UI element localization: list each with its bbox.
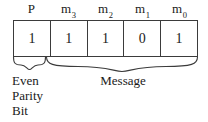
bit-header-m2: m2 [87,1,124,20]
parity-brace-icon [14,57,46,70]
bit-cell-row: 1 1 1 0 1 [13,20,198,57]
bit-header-subscript: 2 [108,11,113,21]
bit-header-subscript: 0 [182,11,187,21]
bit-cell: 0 [124,21,161,56]
bit-cell: 1 [161,21,197,56]
bit-header-base: m [135,1,145,16]
bit-header-base: P [28,1,35,16]
bit-header-parity: P [13,1,50,20]
message-label: Message [76,73,170,88]
bit-header-row: P m3 m2 m1 m0 [13,1,198,20]
parity-bit-label-line: Bit [12,103,68,118]
message-brace-icon [47,57,198,72]
bit-field-diagram: P m3 m2 m1 m0 1 1 1 0 1 Even Parity Bit … [0,0,208,122]
parity-bit-label-line: Parity [12,88,68,103]
bit-cell: 1 [51,21,88,56]
bit-cell: 1 [14,21,51,56]
bit-header-subscript: 3 [71,11,76,21]
parity-bit-label: Even Parity Bit [12,73,68,118]
bit-header-m0: m0 [161,1,198,20]
bit-header-m3: m3 [50,1,87,20]
parity-bit-label-line: Even [12,73,68,88]
bit-header-base: m [61,1,71,16]
bit-header-subscript: 1 [145,11,150,21]
bit-cell: 1 [88,21,125,56]
bit-header-base: m [98,1,108,16]
bit-header-m1: m1 [124,1,161,20]
bit-header-base: m [172,1,182,16]
